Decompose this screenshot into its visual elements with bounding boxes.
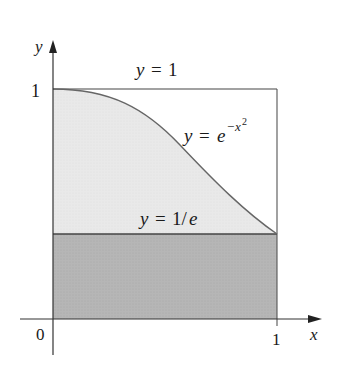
svg-text:=: =	[199, 125, 210, 146]
y-tick-label-1: 1	[31, 81, 40, 101]
svg-text:e: e	[189, 208, 197, 229]
x-axis-label: x	[309, 325, 318, 344]
svg-text:x: x	[234, 119, 241, 134]
svg-text:2: 2	[242, 116, 247, 127]
svg-text:1: 1	[168, 59, 178, 80]
label-y-equals-1: y = 1	[134, 59, 178, 80]
diagram-svg: y 1 0 1 x y = 1 y = e − x 2 y = 1/ e	[0, 0, 341, 369]
region-under-1-over-e	[53, 234, 277, 319]
y-axis-label: y	[33, 37, 43, 56]
svg-text:−: −	[227, 119, 234, 134]
svg-text:y: y	[138, 208, 149, 229]
label-gaussian: y = e − x 2	[182, 116, 247, 146]
svg-text:e: e	[217, 125, 225, 146]
svg-text:=: =	[151, 59, 162, 80]
svg-text:=: =	[155, 208, 166, 229]
origin-label: 0	[36, 325, 45, 344]
svg-text:1/: 1/	[172, 208, 188, 229]
svg-text:y: y	[182, 125, 193, 146]
x-axis-arrow-icon	[308, 315, 322, 323]
svg-text:y: y	[134, 59, 145, 80]
x-tick-label-1: 1	[272, 330, 281, 349]
y-axis-arrow-icon	[49, 40, 57, 53]
figure: y 1 0 1 x y = 1 y = e − x 2 y = 1/ e	[0, 0, 341, 369]
